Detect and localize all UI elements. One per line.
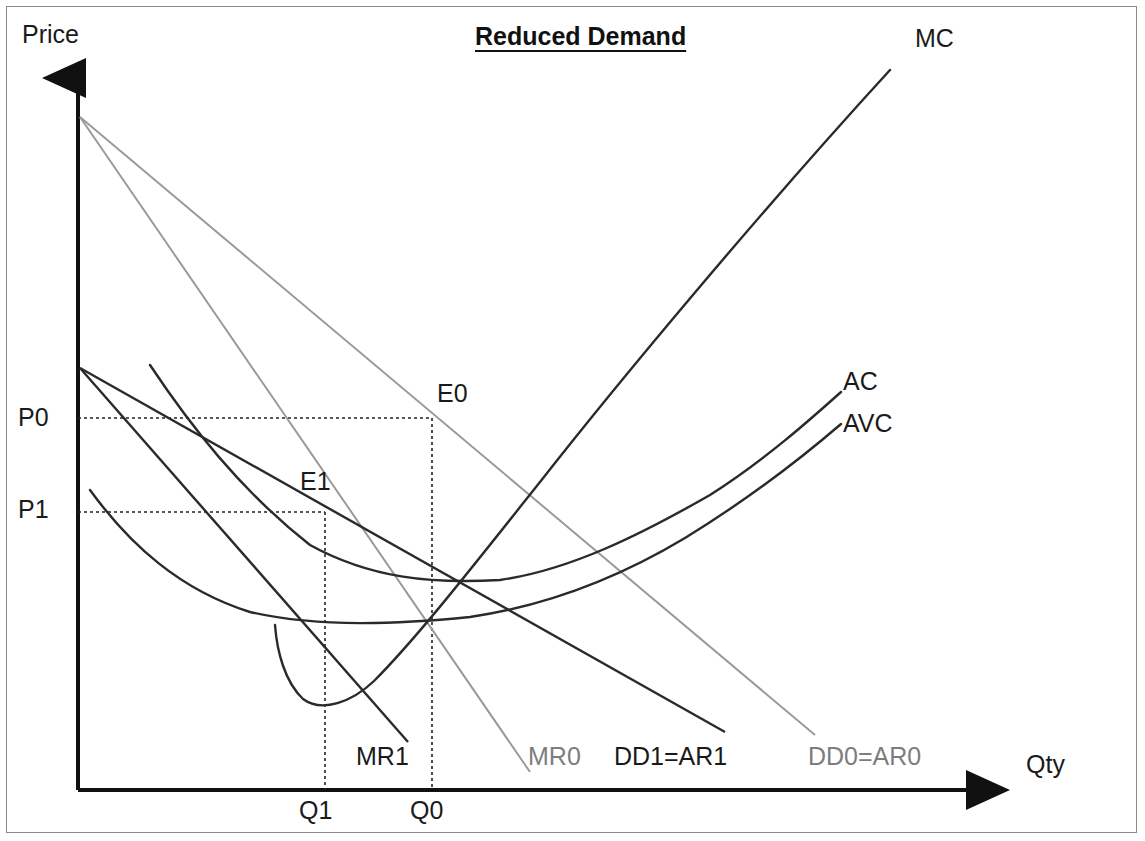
equilibrium-label-e0: E0 xyxy=(437,381,468,406)
curve-label-avc: AVC xyxy=(843,411,893,436)
curve-dd1-ar1 xyxy=(80,368,725,732)
curve-label-ac: AC xyxy=(843,369,878,394)
curve-label-mr1: MR1 xyxy=(356,744,409,769)
page-title: Reduced Demand xyxy=(475,22,686,51)
price-tick-p0: P0 xyxy=(18,405,49,430)
price-tick-p1: P1 xyxy=(18,497,49,522)
curve-ac xyxy=(150,365,841,581)
qty-tick-q1: Q1 xyxy=(299,798,332,823)
curve-label-mr0: MR0 xyxy=(528,744,581,769)
equilibrium-label-e1: E1 xyxy=(300,469,331,494)
qty-tick-q0: Q0 xyxy=(410,798,443,823)
curve-label-dd1-ar1: DD1=AR1 xyxy=(614,744,727,769)
curve-label-dd0-ar0: DD0=AR0 xyxy=(808,744,921,769)
cost-curves-group xyxy=(90,70,890,705)
curve-label-mc: MC xyxy=(915,26,954,51)
x-axis-label: Qty xyxy=(1026,752,1065,777)
curve-dd0-ar0 xyxy=(80,117,815,735)
diagram-page: Reduced Demand Price Qty P0 P1 Q1 Q0 E0 … xyxy=(0,0,1145,841)
diagram-canvas xyxy=(0,0,1145,841)
y-axis-label: Price xyxy=(22,22,79,47)
guide-lines-group xyxy=(78,418,432,790)
curve-mr1 xyxy=(80,368,408,742)
curve-mc xyxy=(275,70,890,705)
reduced-demand-group xyxy=(80,368,725,742)
original-demand-group xyxy=(80,117,815,772)
curve-avc xyxy=(90,424,841,623)
